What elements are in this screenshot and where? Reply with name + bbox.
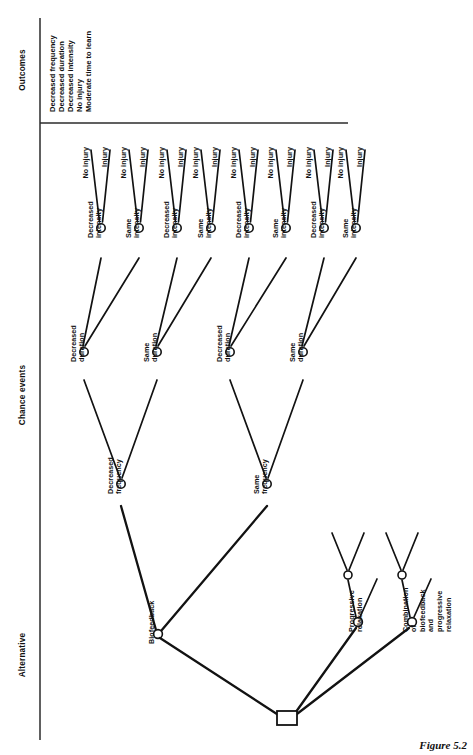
branch-frequency-right-0 (122, 380, 157, 478)
branch-duration-right-3 (304, 258, 356, 346)
branch-duration-left-0 (83, 258, 101, 346)
label-intensity-5-line-1: intensity (279, 208, 288, 238)
outcome-item-4: Moderate time to learn (84, 31, 93, 112)
section-headings: Outcomes Chance events Alternative (18, 49, 27, 677)
combination-chance-node[interactable] (398, 571, 406, 579)
label-no-injury-4-line-0: No injury (229, 147, 238, 179)
section-label-chance-events: Chance events (18, 365, 27, 426)
label-duration-1-line-1: duration (150, 333, 159, 362)
label-frequency-0-line-1: frequency (114, 459, 123, 494)
label-injury-7-line-0: Injury (355, 147, 364, 167)
tree-geometry: No injuryInjuryDecreasedintensityNo inju… (69, 147, 453, 725)
label-intensity-6-line-1: intensity (317, 208, 326, 238)
branch-decision-to-combination (293, 628, 409, 717)
progressive-relaxation-chance-node[interactable] (344, 571, 352, 579)
branch-duration-left-3 (302, 258, 324, 346)
label-injury-1-line-0: Injury (138, 147, 147, 167)
outcome-item-3: No injury (75, 78, 84, 112)
label-intensity-2-line-1: intensity (170, 208, 179, 238)
label-intensity-0-line-1: intensity (94, 208, 103, 238)
label-injury-2-line-0: Injury (176, 147, 185, 167)
figure-caption: Figure 5.2 (419, 739, 467, 751)
branch-duration-right-0 (85, 258, 139, 346)
label-no-injury-0-line-0: No injury (81, 147, 90, 179)
decision-tree-canvas: Outcomes Chance events Alternative Decre… (0, 0, 473, 755)
branch-combination-mid-left (386, 533, 401, 570)
label-no-injury-6-line-0: No injury (304, 147, 313, 179)
label-no-injury-5-line-0: No injury (266, 147, 275, 179)
branch-progressive-mid-right (349, 533, 364, 570)
section-rails (40, 18, 348, 740)
decision-node-root[interactable] (277, 711, 297, 725)
decision-tree-figure: Outcomes Chance events Alternative Decre… (0, 0, 473, 755)
label-injury-5-line-0: Injury (285, 147, 294, 167)
label-intensity-7-line-1: intensity (349, 208, 358, 238)
label-no-injury-3-line-0: No injury (191, 147, 200, 179)
label-intensity-4-line-1: intensity (242, 208, 251, 238)
branch-frequency-right-1 (268, 380, 303, 478)
label-no-injury-1-line-0: No injury (119, 147, 128, 179)
label-intensity-1-line-1: intensity (132, 208, 141, 238)
section-label-alternative: Alternative (18, 633, 27, 678)
label-alternative-progressive-relaxation-line-1: relaxation (355, 598, 364, 632)
label-injury-0-line-0: Injury (100, 147, 109, 167)
label-alternative-biofeedback-line-0: Biofeedback (147, 601, 156, 644)
label-injury-3-line-0: Injury (210, 147, 219, 167)
branch-progressive-mid-left (332, 533, 347, 570)
branch-biofeedback-to-same-frequency (161, 506, 267, 631)
label-duration-2-line-1: duration (223, 333, 232, 362)
label-frequency-1-line-1: frequency (260, 459, 269, 494)
branch-decision-to-biofeedback (160, 638, 283, 718)
outcome-item-2: Decreased intensity (66, 39, 75, 112)
outcome-item-0: Decreased frequency (48, 34, 57, 112)
label-intensity-3-line-1: intensity (204, 208, 213, 238)
label-no-injury-7-line-0: No injury (336, 147, 345, 179)
section-label-outcomes: Outcomes (18, 49, 27, 91)
branch-combination-mid-right (403, 533, 418, 570)
branch-decision-to-progressive-relaxation (293, 628, 356, 716)
label-injury-4-line-0: Injury (248, 147, 257, 167)
label-injury-6-line-0: Injury (323, 147, 332, 167)
outcomes-legend: Decreased frequency Decreased duration D… (48, 31, 93, 112)
label-alternative-combination-line-5: relaxation (444, 598, 453, 632)
label-no-injury-2-line-0: No injury (157, 147, 166, 179)
label-duration-3-line-1: duration (296, 333, 305, 362)
outcome-item-1: Decreased duration (57, 41, 66, 112)
label-duration-0-line-1: duration (77, 333, 86, 362)
